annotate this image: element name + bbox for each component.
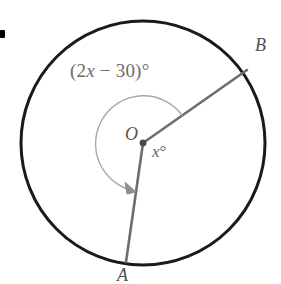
reflex-angle-variable: x (86, 60, 95, 81)
center-point-dot (140, 140, 147, 147)
center-label-o: O (125, 125, 138, 143)
radius-oa-segment (126, 143, 143, 262)
radius-ob-segment (143, 70, 247, 143)
degree-symbol-icon: ° (160, 142, 167, 161)
geometry-figure: (2x − 30)° O x° B A (0, 0, 281, 284)
inner-angle-label: x° (152, 143, 166, 160)
circle-diagram-svg (0, 0, 281, 284)
degree-symbol-icon: ° (142, 60, 150, 81)
point-label-b: B (255, 36, 266, 54)
arc-arrowhead-icon (125, 182, 136, 194)
reflex-angle-prefix: (2 (70, 60, 86, 81)
reflex-angle-suffix: − 30) (95, 60, 142, 81)
list-bullet-marker (0, 30, 5, 38)
point-label-a: A (117, 266, 128, 284)
inner-angle-variable: x (152, 142, 160, 161)
reflex-angle-label: (2x − 30)° (70, 61, 149, 80)
